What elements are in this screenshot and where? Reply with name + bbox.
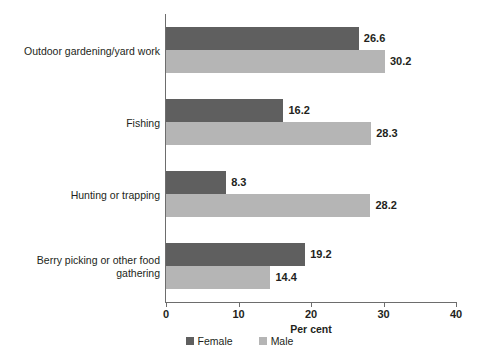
x-tick-label-0: 0 — [163, 308, 169, 320]
legend-item-female[interactable]: Female — [186, 335, 233, 347]
x-tick-label-40: 40 — [450, 308, 462, 320]
category-label-0: Outdoor gardening/yard work — [0, 45, 160, 58]
bar-value-male-2: 28.2 — [375, 199, 396, 211]
x-tick-0 — [166, 302, 167, 307]
bar-male-1[interactable] — [166, 122, 371, 145]
bar-value-female-3: 19.2 — [310, 248, 331, 260]
bar-value-female-2: 8.3 — [231, 176, 246, 188]
bar-value-male-1: 28.3 — [376, 127, 397, 139]
x-tick-30 — [384, 302, 385, 307]
bar-value-female-1: 16.2 — [288, 104, 309, 116]
x-axis-title: Per cent — [166, 323, 456, 335]
bar-female-0[interactable] — [166, 27, 359, 50]
x-tick-40 — [456, 302, 457, 307]
x-tick-label-10: 10 — [232, 308, 244, 320]
x-tick-label-30: 30 — [377, 308, 389, 320]
x-tick-10 — [239, 302, 240, 307]
bar-female-1[interactable] — [166, 99, 283, 122]
bar-value-female-0: 26.6 — [364, 32, 385, 44]
bar-male-2[interactable] — [166, 194, 370, 217]
category-label-1: Fishing — [0, 117, 160, 130]
bar-value-male-3: 14.4 — [275, 271, 296, 283]
legend-label-male: Male — [271, 335, 294, 347]
x-tick-20 — [311, 302, 312, 307]
legend-item-male[interactable]: Male — [259, 335, 294, 347]
chart-legend: Female Male — [0, 335, 479, 347]
category-label-3: Berry picking or other food gathering — [0, 254, 160, 280]
bar-value-male-0: 30.2 — [390, 55, 411, 67]
bar-male-3[interactable] — [166, 266, 270, 289]
legend-swatch-male-icon — [259, 337, 267, 345]
bar-female-3[interactable] — [166, 243, 305, 266]
legend-label-female: Female — [198, 335, 233, 347]
x-tick-label-20: 20 — [305, 308, 317, 320]
bar-female-2[interactable] — [166, 171, 226, 194]
bar-male-0[interactable] — [166, 50, 385, 73]
legend-swatch-female-icon — [186, 337, 194, 345]
bar-chart: 010203040 Outdoor gardening/yard workFis… — [0, 0, 479, 354]
category-label-2: Hunting or trapping — [0, 189, 160, 202]
